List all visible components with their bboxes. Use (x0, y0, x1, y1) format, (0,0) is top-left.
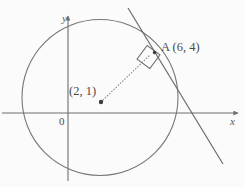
tangent-point-label: A (6, 4) (161, 41, 200, 54)
tangent-line (128, 8, 223, 164)
tangent-point-dot (153, 51, 156, 54)
main-circle (22, 20, 178, 176)
figure-canvas: y x 0 (2, 1) A (6, 4) (0, 0, 245, 187)
x-axis-label: x (230, 116, 235, 127)
y-axis-label: y (62, 13, 67, 24)
center-point-label: (2, 1) (69, 85, 96, 98)
circle-center-dot (99, 100, 103, 104)
figure-graphics (0, 0, 245, 187)
right-angle-marker-icon (137, 45, 160, 68)
radius-dotted-segment (103, 55, 150, 100)
origin-label: 0 (59, 116, 65, 127)
